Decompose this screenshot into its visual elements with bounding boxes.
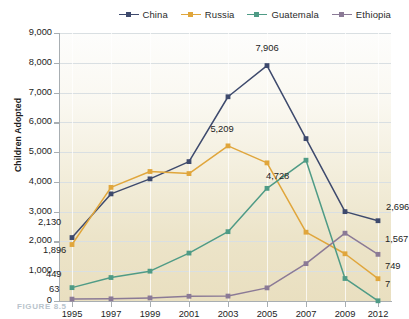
data-point-marker bbox=[343, 276, 348, 281]
series-line bbox=[72, 146, 378, 279]
data-label-russia: 5,209 bbox=[210, 123, 233, 134]
data-point-marker bbox=[109, 191, 114, 196]
data-point-marker bbox=[70, 242, 75, 247]
data-point-marker bbox=[148, 296, 153, 301]
data-point-marker bbox=[187, 171, 192, 176]
series-china bbox=[70, 63, 381, 240]
data-point-marker bbox=[226, 294, 231, 299]
legend-swatch-icon bbox=[119, 10, 139, 19]
data-point-marker bbox=[376, 252, 381, 257]
series-russia bbox=[70, 143, 381, 281]
data-label-guatemala: 4,728 bbox=[266, 170, 289, 181]
legend-item-ethiopia[interactable]: Ethiopia bbox=[332, 9, 391, 20]
legend-item-label: Guatemala bbox=[271, 9, 318, 20]
data-point-marker bbox=[265, 285, 270, 290]
legend-swatch-icon bbox=[332, 10, 352, 19]
data-point-marker bbox=[304, 158, 309, 163]
series-line bbox=[72, 160, 378, 301]
data-point-marker bbox=[226, 229, 231, 234]
data-label-russia: 749 bbox=[385, 260, 401, 271]
series-line bbox=[72, 233, 378, 299]
legend-item-guatemala[interactable]: Guatemala bbox=[247, 9, 318, 20]
legend-item-russia[interactable]: Russia bbox=[181, 9, 235, 20]
data-point-marker bbox=[226, 143, 231, 148]
legend-item-label: China bbox=[143, 9, 168, 20]
legend-item-china[interactable]: China bbox=[119, 9, 168, 20]
data-label-ethiopia: 63 bbox=[49, 283, 59, 294]
legend-swatch-icon bbox=[181, 10, 201, 19]
data-point-marker bbox=[109, 296, 114, 301]
data-label-guatemala: 7 bbox=[385, 278, 390, 289]
data-point-marker bbox=[148, 169, 153, 174]
data-label-china: 2,130 bbox=[38, 216, 61, 227]
data-point-marker bbox=[187, 294, 192, 299]
data-point-marker bbox=[70, 285, 75, 290]
data-point-marker bbox=[376, 276, 381, 281]
data-point-marker bbox=[70, 235, 75, 240]
data-label-russia: 1,896 bbox=[43, 244, 66, 255]
data-point-marker bbox=[265, 186, 270, 191]
data-point-marker bbox=[304, 136, 309, 141]
data-point-marker bbox=[343, 231, 348, 236]
data-label-china: 7,906 bbox=[255, 42, 278, 53]
data-point-marker bbox=[187, 251, 192, 256]
data-point-marker bbox=[187, 159, 192, 164]
data-point-marker bbox=[343, 209, 348, 214]
data-point-marker bbox=[265, 63, 270, 68]
legend-swatch-icon bbox=[247, 10, 267, 19]
data-label-china: 2,696 bbox=[386, 201, 409, 212]
series-guatemala bbox=[70, 158, 381, 303]
legend-item-label: Ethiopia bbox=[356, 9, 391, 20]
plot-region: 01,0002,0003,0004,0005,0006,0007,0008,00… bbox=[0, 22, 397, 284]
data-label-ethiopia: 1,567 bbox=[385, 233, 408, 244]
data-point-marker bbox=[376, 298, 381, 303]
legend-item-label: Russia bbox=[205, 9, 235, 20]
figure-caption: FIGURE 8.5 bbox=[17, 302, 67, 309]
data-point-marker bbox=[304, 230, 309, 235]
data-point-marker bbox=[148, 269, 153, 274]
data-point-marker bbox=[109, 185, 114, 190]
series-line bbox=[72, 66, 378, 238]
data-point-marker bbox=[343, 251, 348, 256]
data-point-marker bbox=[148, 176, 153, 181]
chart-legend: ChinaRussiaGuatemalaEthiopia bbox=[0, 6, 397, 22]
data-label-guatemala: 449 bbox=[46, 268, 62, 279]
data-point-marker bbox=[226, 94, 231, 99]
data-point-marker bbox=[376, 218, 381, 223]
data-point-marker bbox=[70, 297, 75, 302]
data-point-marker bbox=[109, 275, 114, 280]
series-ethiopia bbox=[70, 231, 381, 302]
data-point-marker bbox=[304, 261, 309, 266]
data-point-marker bbox=[265, 160, 270, 165]
